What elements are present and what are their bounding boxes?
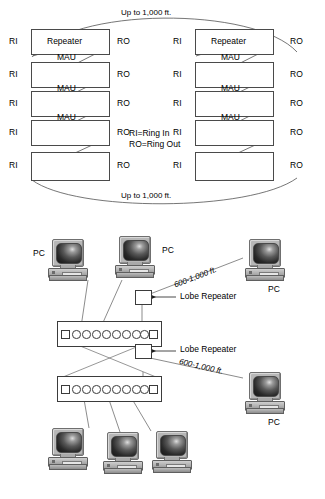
screen [56, 432, 82, 453]
pc-label-top-right: PC [268, 285, 280, 294]
upper-mau-port[interactable] [72, 330, 81, 339]
lower-mau-port[interactable] [140, 385, 149, 394]
upper-mau-ri-connector[interactable] [61, 330, 70, 339]
screen [253, 376, 279, 397]
case-base [104, 468, 142, 474]
lower-mau-port[interactable] [92, 385, 101, 394]
upper-mau-port[interactable] [82, 330, 91, 339]
case-base [49, 464, 87, 470]
pc-label-top-mid: PC [162, 246, 174, 255]
monitor-bezel [52, 239, 84, 267]
pc-mid-right [245, 372, 283, 412]
pc-bottom-2 [103, 432, 141, 472]
power-led-icon [249, 271, 252, 274]
screen [160, 435, 186, 456]
case-base [246, 408, 284, 414]
power-led-icon [107, 464, 110, 467]
upper-mau-port[interactable] [140, 330, 149, 339]
case-base [153, 467, 191, 473]
pc-bottom-1 [48, 428, 86, 468]
lower-mau-port[interactable] [82, 385, 91, 394]
lower-mau-ro-connector[interactable] [149, 385, 158, 394]
monitor-bezel [249, 239, 281, 267]
case-base [116, 272, 154, 278]
screen [111, 436, 137, 457]
diagram-canvas: Up to 1,000 ft. Up to 1,000 ft. RI=Ring … [0, 0, 325, 499]
lobe-repeater-label-2: Lobe Repeater [180, 345, 236, 354]
monitor-bezel [156, 431, 188, 459]
lower-mau-port[interactable] [112, 385, 121, 394]
pc-label-mid-right: PC [268, 418, 280, 427]
upper-mau-port[interactable] [112, 330, 121, 339]
pc-bottom-3 [152, 431, 190, 471]
power-led-icon [52, 460, 55, 463]
monitor-bezel [249, 372, 281, 400]
power-led-icon [119, 268, 122, 271]
monitor-bezel [52, 428, 84, 456]
case-base [246, 275, 284, 281]
lower-mau-port[interactable] [122, 385, 131, 394]
upper-mau-port[interactable] [92, 330, 101, 339]
pc-top-left [48, 239, 86, 279]
power-led-icon [249, 404, 252, 407]
upper-mau-port[interactable] [122, 330, 131, 339]
lower-mau-port[interactable] [72, 385, 81, 394]
upper-mau-ro-connector[interactable] [149, 330, 158, 339]
upper-mau-port[interactable] [102, 330, 111, 339]
lobe-repeater-box-1[interactable] [135, 290, 152, 305]
pc-label-top-left: PC [33, 249, 45, 258]
screen [56, 243, 82, 264]
monitor-bezel [107, 432, 139, 460]
case-base [49, 275, 87, 281]
pc-top-right [245, 239, 283, 279]
power-led-icon [52, 271, 55, 274]
power-led-icon [156, 463, 159, 466]
pc-top-mid [115, 236, 153, 276]
lower-mau-port[interactable] [102, 385, 111, 394]
lobe-repeater-box-2[interactable] [135, 344, 152, 359]
monitor-bezel [119, 236, 151, 264]
lobe-repeater-label-1: Lobe Repeater [180, 292, 236, 301]
lower-mau-ri-connector[interactable] [61, 385, 70, 394]
screen [123, 240, 149, 261]
screen [253, 243, 279, 264]
